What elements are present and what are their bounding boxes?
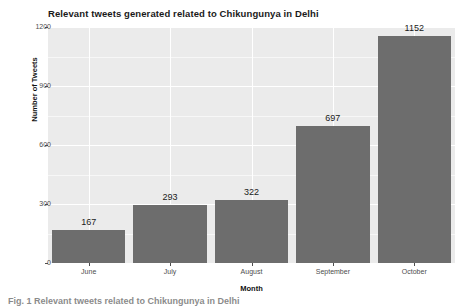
x-tick-label: October <box>374 268 455 275</box>
x-tick-label: August <box>211 268 292 275</box>
bar-value-label: 293 <box>129 192 210 202</box>
x-tick-label: July <box>129 268 210 275</box>
bars-layer: 1672933226971152 <box>48 27 455 263</box>
y-axis-title: Number of Tweets <box>30 30 39 150</box>
x-tick-mark <box>252 263 253 266</box>
bar[interactable] <box>52 230 125 263</box>
x-tick-mark <box>333 263 334 266</box>
bar[interactable] <box>296 126 369 263</box>
plot-panel: 1672933226971152 <box>48 27 455 263</box>
y-tick-mark <box>45 145 48 146</box>
x-tick-label: June <box>48 268 129 275</box>
bar[interactable] <box>133 205 206 263</box>
bar[interactable] <box>378 36 451 263</box>
chart-title: Relevant tweets generated related to Chi… <box>48 8 319 19</box>
y-tick-mark <box>45 204 48 205</box>
x-tick-label: September <box>292 268 373 275</box>
x-tick-mark <box>89 263 90 266</box>
x-tick-mark <box>170 263 171 266</box>
y-tick-mark <box>45 263 48 264</box>
bar-value-label: 1152 <box>374 23 455 33</box>
bar-value-label: 167 <box>48 217 129 227</box>
bar-slot: 167 <box>48 27 129 263</box>
y-tick-mark <box>45 27 48 28</box>
bar[interactable] <box>215 200 288 263</box>
y-tick-mark <box>45 86 48 87</box>
bar-slot: 697 <box>292 27 373 263</box>
bar-slot: 293 <box>129 27 210 263</box>
figure-caption-text: Fig. 1 Relevant tweets related to Chikun… <box>8 297 240 306</box>
bar-slot: 322 <box>211 27 292 263</box>
chart-figure: Relevant tweets generated related to Chi… <box>0 0 473 307</box>
x-axis-title: Month <box>48 284 455 293</box>
bar-value-label: 322 <box>211 187 292 197</box>
x-tick-mark <box>414 263 415 266</box>
bar-slot: 1152 <box>374 27 455 263</box>
bar-value-label: 697 <box>292 113 373 123</box>
figure-caption: Fig. 1 Relevant tweets related to Chikun… <box>0 297 473 307</box>
